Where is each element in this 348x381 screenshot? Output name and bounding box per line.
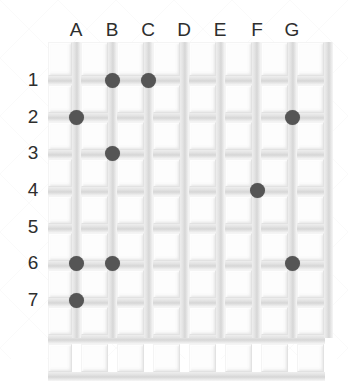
grid-cell[interactable] [189, 85, 216, 113]
grid-dot-g2[interactable] [285, 110, 300, 125]
grid-cell[interactable] [48, 233, 72, 261]
grid-line-vertical [180, 42, 189, 338]
grid-cell[interactable] [117, 196, 144, 224]
grid-cell[interactable] [297, 159, 324, 187]
grid-cell[interactable] [261, 85, 288, 113]
grid-cell[interactable] [117, 122, 144, 150]
grid-cell[interactable] [81, 307, 108, 335]
grid-cell[interactable] [153, 344, 180, 372]
grid-line-horizontal [48, 187, 325, 196]
row-label-3: 3 [22, 142, 44, 164]
grid-cell[interactable] [225, 344, 252, 372]
grid-cell[interactable] [48, 85, 72, 113]
column-label-g: G [281, 19, 303, 41]
grid-cell[interactable] [81, 122, 108, 150]
grid-cell[interactable] [48, 42, 72, 76]
grid-cell[interactable] [225, 307, 252, 335]
grid-cell[interactable] [225, 270, 252, 298]
grid-dot-b1[interactable] [105, 73, 120, 88]
grid-cell[interactable] [153, 307, 180, 335]
grid-cell[interactable] [48, 307, 72, 335]
grid-cell[interactable] [81, 344, 108, 372]
grid-cell[interactable] [261, 344, 288, 372]
grid-cell[interactable] [189, 344, 216, 372]
grid-cell[interactable] [189, 159, 216, 187]
grid-dot-a7[interactable] [69, 293, 84, 308]
grid-cell[interactable] [297, 270, 324, 298]
grid-line-horizontal [48, 224, 325, 233]
grid-cell[interactable] [297, 233, 324, 261]
grid-cell[interactable] [297, 344, 324, 372]
column-label-d: D [173, 19, 195, 41]
grid-line-horizontal [48, 150, 325, 159]
row-label-6: 6 [22, 252, 44, 274]
grid-cell[interactable] [153, 122, 180, 150]
row-label-1: 1 [22, 69, 44, 91]
grid-cell[interactable] [48, 344, 72, 372]
grid-dot-g6[interactable] [285, 256, 300, 271]
grid-cell[interactable] [297, 85, 324, 113]
grid-cell[interactable] [189, 196, 216, 224]
grid-line-horizontal [48, 372, 325, 381]
row-label-4: 4 [22, 179, 44, 201]
column-label-e: E [209, 19, 231, 41]
grid-dot-b3[interactable] [105, 146, 120, 161]
grid-cell[interactable] [153, 85, 180, 113]
grid-cell[interactable] [48, 159, 72, 187]
grid-dot-c1[interactable] [141, 73, 156, 88]
grid-cell[interactable] [225, 122, 252, 150]
grid-line-horizontal [48, 113, 325, 122]
grid-cell[interactable] [297, 196, 324, 224]
grid-cell[interactable] [48, 270, 72, 298]
grid-cell[interactable] [225, 85, 252, 113]
grid-cell[interactable] [117, 42, 144, 76]
grid-cell[interactable] [225, 233, 252, 261]
grid-cell[interactable] [81, 270, 108, 298]
grid-cell[interactable] [261, 307, 288, 335]
grid-line-horizontal [48, 335, 325, 344]
grid-cell[interactable] [261, 122, 288, 150]
grid-cell[interactable] [81, 233, 108, 261]
grid-cell[interactable] [117, 344, 144, 372]
grid-cell[interactable] [48, 196, 72, 224]
grid-dot-a2[interactable] [69, 110, 84, 125]
grid-cell[interactable] [189, 122, 216, 150]
grid-cell[interactable] [297, 307, 324, 335]
grid-cell[interactable] [81, 42, 108, 76]
grid-dot-b6[interactable] [105, 256, 120, 271]
grid-cell[interactable] [117, 270, 144, 298]
grid-dot-f4[interactable] [250, 183, 265, 198]
grid-cell[interactable] [153, 270, 180, 298]
grid-cell[interactable] [225, 42, 252, 76]
grid-cell[interactable] [261, 159, 288, 187]
grid-cell[interactable] [261, 233, 288, 261]
grid-cell[interactable] [297, 42, 324, 76]
grid-cell[interactable] [117, 307, 144, 335]
row-label-2: 2 [22, 106, 44, 128]
grid-cell[interactable] [81, 85, 108, 113]
grid-cell[interactable] [261, 270, 288, 298]
grid-cell[interactable] [225, 196, 252, 224]
grid-cell[interactable] [189, 307, 216, 335]
grid-cell[interactable] [153, 159, 180, 187]
grid-cell[interactable] [81, 196, 108, 224]
grid-cell[interactable] [225, 159, 252, 187]
grid-cell[interactable] [48, 122, 72, 150]
column-label-c: C [137, 19, 159, 41]
grid-cell[interactable] [189, 233, 216, 261]
grid-cell[interactable] [189, 270, 216, 298]
grid-line-horizontal [48, 76, 325, 85]
grid-cell[interactable] [261, 42, 288, 76]
grid-cell[interactable] [81, 159, 108, 187]
grid-cell[interactable] [117, 233, 144, 261]
grid-cell[interactable] [297, 122, 324, 150]
grid-cell[interactable] [153, 233, 180, 261]
grid-dot-a6[interactable] [69, 256, 84, 271]
grid-cell[interactable] [189, 42, 216, 76]
grid-cell[interactable] [117, 85, 144, 113]
grid-line-vertical [324, 42, 333, 338]
grid-cell[interactable] [117, 159, 144, 187]
grid-cell[interactable] [261, 196, 288, 224]
grid-cell[interactable] [153, 196, 180, 224]
grid-cell[interactable] [153, 42, 180, 76]
